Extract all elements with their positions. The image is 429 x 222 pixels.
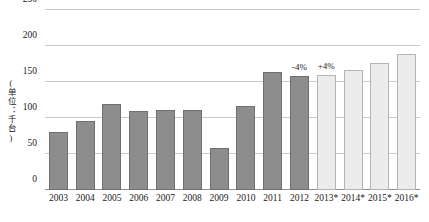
y-axis-tick-label: 150 [11,66,37,76]
y-axis-tick-label: 0 [11,174,37,184]
gridline-250 [45,9,420,10]
gridline-150 [45,81,420,82]
y-axis-tick-label: 100 [11,102,37,112]
bar-2009 [210,148,229,190]
bar-2003 [49,132,68,190]
bar-chart: (单位：千台) 05010015020025020032004200520062… [0,0,429,222]
y-axis-tick-label: 50 [11,138,37,148]
gridline-100 [45,117,420,118]
bar-2014-est [344,70,363,190]
y-axis-tick-label: 250 [11,0,37,4]
bar-2008 [183,110,202,190]
bar-2007 [156,110,175,190]
y-axis-tick-label: 200 [11,30,37,40]
bar-2015-est [370,63,389,190]
annotation-2013-est: +4% [309,61,343,71]
gridline-0 [45,189,420,190]
bar-2016-est [397,54,416,190]
x-axis-tick-label: 2016* [387,193,427,203]
plot-area: 0501001502002502003200420052006200720082… [45,10,420,190]
bar-2004 [76,121,95,190]
bar-2010 [236,106,255,190]
bar-2012 [290,76,309,190]
bar-2013-est [317,75,336,190]
gridline-200 [45,45,420,46]
bar-2011 [263,72,282,190]
gridline-50 [45,153,420,154]
bar-2006 [129,111,148,190]
bar-2005 [102,104,121,190]
